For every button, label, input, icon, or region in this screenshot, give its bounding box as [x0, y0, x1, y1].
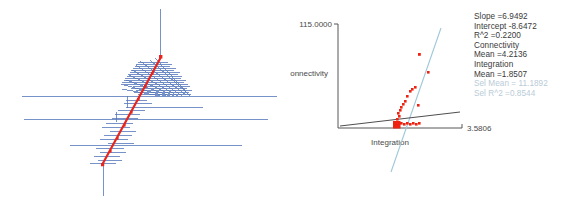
y-axis-max-label: 115.0000: [299, 20, 332, 29]
fit-line: [391, 28, 441, 172]
x-axis-max-label: 3.5806: [467, 124, 492, 133]
y-axis-title: Connectivity: [290, 69, 328, 78]
data-point: [396, 118, 399, 121]
stat-integration-label: Integration: [474, 60, 548, 70]
data-point: [400, 106, 403, 109]
network-graph-svg: [0, 0, 290, 206]
x-axis-title: Integration: [371, 138, 409, 147]
data-point: [406, 122, 409, 125]
data-point: [427, 71, 430, 74]
data-point: [400, 122, 403, 125]
stat-connectivity-label: Connectivity: [474, 41, 548, 51]
data-point: [402, 103, 405, 106]
data-point: [418, 122, 421, 125]
stat-intercept: Intercept -8.6472: [474, 22, 548, 32]
data-point: [418, 53, 421, 56]
stat-connectivity-mean: Mean =4.2136: [474, 50, 548, 60]
data-point: [404, 100, 407, 103]
stat-slope: Slope =6.9492: [474, 12, 548, 22]
regression-scatter-panel: 115.0000 3.5806 Connectivity Integration: [290, 0, 579, 206]
data-point: [414, 86, 417, 89]
data-point: [397, 112, 400, 115]
network-edges: [22, 9, 277, 196]
data-point: [399, 109, 402, 112]
data-points: [393, 53, 430, 129]
data-point: [398, 115, 401, 118]
statistics-annotations: Slope =6.9492 Intercept -8.6472 R^2 =0.2…: [474, 12, 548, 98]
data-point: [417, 104, 420, 107]
data-point: [415, 123, 418, 126]
network-graph-panel: [0, 0, 290, 206]
stat-sel-mean: Sel Mean = 11.1892: [474, 79, 548, 89]
data-point: [406, 95, 409, 98]
data-point: [411, 88, 414, 91]
stat-integration-mean: Mean =1.8507: [474, 70, 548, 80]
data-point: [409, 123, 412, 126]
stat-r-squared: R^2 =0.2200: [474, 31, 548, 41]
data-point: [393, 121, 401, 129]
data-point: [412, 122, 415, 125]
stat-sel-r-squared: Sel R^2 =0.8544: [474, 89, 548, 99]
data-point: [403, 123, 406, 126]
